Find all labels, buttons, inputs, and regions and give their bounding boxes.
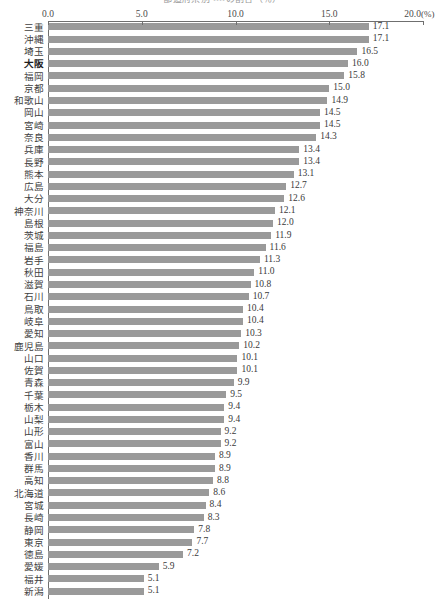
category-label-row: 高知: [0, 475, 46, 487]
category-label: 大阪: [24, 58, 44, 69]
bar: [48, 404, 224, 411]
category-label-row: 岐阜: [0, 315, 46, 327]
category-label-row: 沖縄: [0, 33, 46, 45]
bar-value-label: 8.9: [219, 462, 231, 474]
bar-row: 15.8: [48, 70, 423, 82]
bar-value-label: 16.0: [352, 57, 369, 69]
x-axis-tick-label: 15.0: [321, 8, 338, 20]
bar-row: 8.8: [48, 475, 423, 487]
bar: [48, 232, 271, 239]
bar: [48, 183, 286, 190]
x-axis-tick-label: 5.0: [136, 8, 148, 20]
category-label: 愛媛: [24, 561, 44, 572]
bar: [48, 379, 234, 386]
category-label: 群馬: [24, 463, 44, 474]
bar-value-label: 10.1: [241, 363, 258, 375]
category-label: 徳島: [24, 549, 44, 560]
category-label: 兵庫: [24, 144, 44, 155]
category-label: 宮崎: [24, 120, 44, 131]
category-label: 北海道: [14, 488, 44, 499]
bar: [48, 60, 348, 67]
bar-row: 14.3: [48, 131, 423, 143]
bar-row: 15.0: [48, 82, 423, 94]
plot-area: 17.117.116.516.015.815.014.914.514.514.3…: [48, 21, 423, 599]
bar-value-label: 9.4: [228, 400, 240, 412]
bar-row: 7.7: [48, 536, 423, 548]
bar-row: 12.6: [48, 193, 423, 205]
bar-row: 12.7: [48, 180, 423, 192]
category-label: 福井: [24, 574, 44, 585]
category-label: 鹿児島: [14, 341, 44, 352]
x-axis-tick-label: 20.0(%): [404, 8, 434, 20]
bar-row: 13.1: [48, 168, 423, 180]
bar-value-label: 14.9: [331, 94, 348, 106]
category-label-row: 福岡: [0, 70, 46, 82]
category-label-row: 東京: [0, 536, 46, 548]
category-label-row: 静岡: [0, 524, 46, 536]
bar: [48, 256, 260, 263]
category-label: 奈良: [24, 132, 44, 143]
category-label-row: 広島: [0, 180, 46, 192]
bar-row: 11.9: [48, 230, 423, 242]
category-label: 富山: [24, 439, 44, 450]
bar: [48, 551, 183, 558]
bar-value-label: 7.8: [198, 523, 210, 535]
bar-value-label: 10.2: [243, 339, 260, 351]
bar-value-label: 8.9: [219, 449, 231, 461]
category-label-row: 新潟: [0, 585, 46, 597]
category-label-row: 山梨: [0, 414, 46, 426]
bar-row: 8.9: [48, 463, 423, 475]
bar: [48, 428, 221, 435]
bar-value-label: 8.8: [217, 474, 229, 486]
bar-value-label: 13.4: [303, 143, 320, 155]
bar: [48, 342, 239, 349]
category-label-row: 群馬: [0, 463, 46, 475]
category-label-row: 宮崎: [0, 119, 46, 131]
bar-row: 10.4: [48, 315, 423, 327]
category-label-row: 奈良: [0, 131, 46, 143]
category-label-row: 香川: [0, 450, 46, 462]
category-label: 岩手: [24, 255, 44, 266]
category-label: 宮城: [24, 500, 44, 511]
bar-value-label: 11.9: [275, 229, 291, 241]
bar: [48, 306, 243, 313]
bar: [48, 23, 369, 30]
bar: [48, 416, 224, 423]
category-label: 和歌山: [14, 95, 44, 106]
bar-row: 11.6: [48, 242, 423, 254]
bar: [48, 453, 215, 460]
chart-title: 都道府県別 ・・・・の割合（％）: [0, 0, 445, 3]
bar: [48, 158, 299, 165]
bar-value-label: 17.1: [373, 20, 390, 32]
bar-row: 5.1: [48, 585, 423, 597]
bar-row: 12.0: [48, 217, 423, 229]
bar-value-label: 12.6: [288, 192, 305, 204]
category-label: 三重: [24, 22, 44, 33]
bar-row: 10.4: [48, 303, 423, 315]
category-label-row: 栃木: [0, 401, 46, 413]
bar: [48, 134, 316, 141]
category-label: 滋賀: [24, 279, 44, 290]
bar-row: 11.3: [48, 254, 423, 266]
bar-row: 7.8: [48, 524, 423, 536]
category-label-row: 千葉: [0, 389, 46, 401]
category-label-row: 大阪: [0, 58, 46, 70]
category-label: 茨城: [24, 230, 44, 241]
bar-value-label: 11.3: [264, 253, 280, 265]
bar: [48, 146, 299, 153]
bar-row: 7.2: [48, 548, 423, 560]
x-axis-tick-mark: [236, 21, 237, 25]
bar: [48, 563, 159, 570]
bar-row: 10.3: [48, 328, 423, 340]
category-label: 長崎: [24, 512, 44, 523]
bar-rows: 17.117.116.516.015.815.014.914.514.514.3…: [48, 21, 423, 597]
bar: [48, 244, 266, 251]
category-label-row: 佐賀: [0, 364, 46, 376]
bar-value-label: 12.0: [277, 216, 294, 228]
category-label: 京都: [24, 83, 44, 94]
bar: [48, 122, 320, 129]
x-axis-tick-label: 0.0: [42, 8, 54, 20]
category-label-row: 愛媛: [0, 561, 46, 573]
category-label-row: 福島: [0, 242, 46, 254]
bar-value-label: 14.5: [324, 118, 341, 130]
